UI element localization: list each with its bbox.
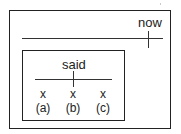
speck xyxy=(160,3,161,5)
event-a-mark: x xyxy=(31,88,55,100)
event-a-label: (a) xyxy=(31,102,55,114)
event-b-label: (b) xyxy=(61,102,85,114)
now-label: now xyxy=(138,16,162,29)
said-label: said xyxy=(62,58,86,71)
event-c-mark: x xyxy=(91,88,115,100)
outer-timeline xyxy=(22,38,163,39)
event-c-label: (c) xyxy=(91,102,115,114)
now-tick xyxy=(148,31,149,48)
said-tick xyxy=(73,71,74,87)
event-b-mark: x xyxy=(61,88,85,100)
